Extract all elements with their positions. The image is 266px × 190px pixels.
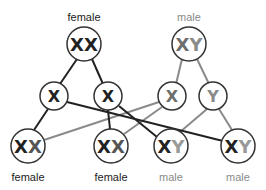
gamete-male-x: X <box>158 82 186 110</box>
parent-female-genotype: XX <box>70 34 98 55</box>
svg-text:Y: Y <box>206 87 219 106</box>
svg-text:XY: XY <box>158 136 186 157</box>
svg-text:XX: XX <box>97 136 125 157</box>
svg-text:male: male <box>159 171 183 183</box>
svg-text:male: male <box>226 171 250 183</box>
offspring-4: XY male <box>221 129 255 183</box>
parent-gamete-lines <box>60 59 209 84</box>
offspring-1: XX female <box>11 129 45 183</box>
parent-female: female XX <box>67 11 101 61</box>
svg-text:XY: XY <box>225 136 253 157</box>
offspring-2: XX female <box>94 129 128 183</box>
svg-text:X: X <box>48 87 61 106</box>
svg-text:female: female <box>11 171 44 183</box>
svg-text:female: female <box>94 171 127 183</box>
parent-male-label: male <box>177 11 201 23</box>
svg-text:X: X <box>166 87 179 106</box>
gamete-female-1: X <box>40 82 68 110</box>
svg-text:X: X <box>102 87 115 106</box>
gamete-female-2: X <box>94 82 122 110</box>
svg-text:XX: XX <box>14 136 42 157</box>
gamete-male-y: Y <box>199 82 227 110</box>
offspring-3: XY male <box>154 129 188 183</box>
parent-male: male XY <box>172 11 206 61</box>
inheritance-diagram: female XX male XY X X X Y XX female XX f… <box>0 0 266 190</box>
parent-male-genotype: XY <box>176 34 204 55</box>
parent-female-label: female <box>67 11 100 23</box>
gamete-offspring-lines <box>34 102 232 141</box>
